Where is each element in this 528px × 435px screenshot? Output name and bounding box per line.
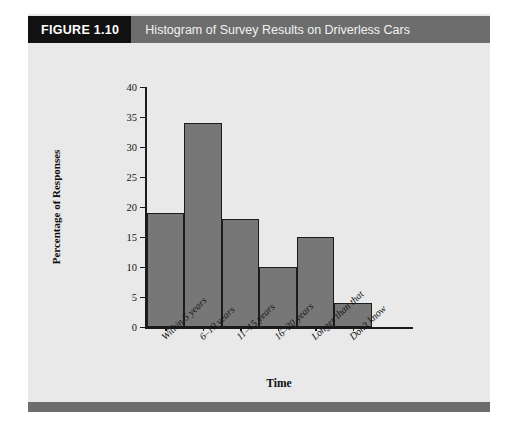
y-axis-tick-label: 25 bbox=[127, 172, 138, 183]
x-axis-title: Time bbox=[145, 377, 413, 389]
y-axis-tick-label: 5 bbox=[132, 292, 137, 303]
y-axis-tick-label: 35 bbox=[127, 112, 138, 123]
y-axis-tick-mark bbox=[140, 117, 145, 118]
figure-panel: FIGURE 1.10 Histogram of Survey Results … bbox=[28, 14, 490, 412]
y-axis-tick-label: 40 bbox=[127, 82, 138, 93]
y-axis-tick-mark bbox=[140, 87, 145, 88]
y-axis-tick-mark bbox=[140, 327, 145, 328]
y-axis-tick-mark bbox=[140, 177, 145, 178]
y-axis-tick-label: 20 bbox=[127, 202, 138, 213]
y-axis-tick-mark bbox=[140, 147, 145, 148]
y-axis-tick-label: 0 bbox=[132, 322, 137, 333]
figure-header-bar: FIGURE 1.10 Histogram of Survey Results … bbox=[28, 16, 490, 43]
y-axis-tick-label: 15 bbox=[127, 232, 138, 243]
y-axis-tick-mark bbox=[140, 237, 145, 238]
y-axis-title-text: Percentage of Responses bbox=[50, 150, 62, 265]
y-axis-title: Percentage of Responses bbox=[48, 87, 64, 327]
figure-title: Histogram of Survey Results on Driverles… bbox=[131, 16, 410, 43]
chart-area: Percentage of Responses 0510152025303540… bbox=[28, 43, 490, 402]
figure-number-badge: FIGURE 1.10 bbox=[28, 16, 131, 43]
y-axis-tick-mark bbox=[140, 297, 145, 298]
y-axis-tick-label: 30 bbox=[127, 142, 138, 153]
histogram-bar bbox=[147, 213, 185, 327]
figure-footer-bar bbox=[28, 402, 490, 412]
y-axis-tick-mark bbox=[140, 267, 145, 268]
plot-area: 0510152025303540 Within 5 years6–10 year… bbox=[145, 87, 413, 327]
y-axis-tick-mark bbox=[140, 207, 145, 208]
bar-series bbox=[147, 87, 413, 327]
y-axis-tick-label: 10 bbox=[127, 262, 138, 273]
